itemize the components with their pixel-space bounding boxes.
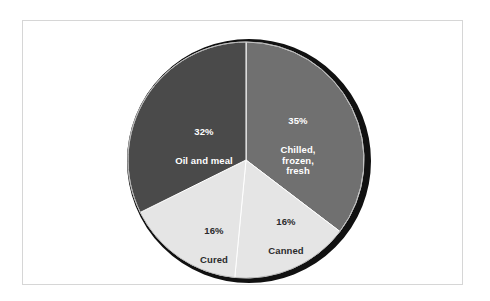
figure-canvas: 35% Chilled, frozen, fresh 32% Oil and m…: [0, 0, 490, 301]
pie-chart-svg: [0, 0, 490, 301]
pie-chart: 35% Chilled, frozen, fresh 32% Oil and m…: [0, 0, 490, 301]
pie-slice-group: [128, 42, 364, 278]
